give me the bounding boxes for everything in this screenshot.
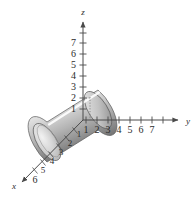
z-tick-label-5: 5 [71, 59, 76, 70]
z-tick-label-7: 7 [71, 37, 76, 48]
y-tick-label-1: 1 [84, 124, 89, 135]
z-tick-label-1: 1 [71, 103, 76, 114]
y-tick-label-6: 6 [139, 124, 144, 135]
z-tick-label-2: 2 [71, 92, 76, 103]
y-tick-label-2: 2 [95, 124, 100, 135]
x-tick-label-6: 6 [33, 174, 38, 185]
x-tick-label-5: 5 [41, 165, 46, 175]
y-tick-label-3: 3 [106, 124, 111, 135]
x-tick-label-3: 3 [59, 147, 64, 157]
x-axis-label: x [11, 181, 16, 191]
z-tick-label-3: 3 [71, 81, 76, 92]
z-tick-label-4: 4 [71, 70, 76, 81]
x-tick-label-1: 1 [77, 129, 82, 139]
x-tick-label-2: 2 [68, 138, 73, 148]
figure-canvas: 1 2 3 4 5 6 7 z 1 2 3 [0, 0, 196, 202]
y-tick-label-7: 7 [150, 124, 155, 135]
y-tick-label-5: 5 [128, 124, 133, 135]
x-tick-label-4: 4 [50, 156, 55, 166]
z-axis-label: z [80, 7, 85, 17]
y-tick-label-4: 4 [117, 124, 122, 135]
coordinate-system-diagram: 1 2 3 4 5 6 7 z 1 2 3 [0, 0, 196, 202]
z-tick-label-6: 6 [71, 48, 76, 59]
y-axis-label: y [185, 116, 190, 126]
